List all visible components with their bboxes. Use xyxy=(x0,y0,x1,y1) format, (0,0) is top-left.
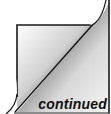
continued-label: continued xyxy=(38,97,107,111)
bottom-curl xyxy=(0,62,17,114)
